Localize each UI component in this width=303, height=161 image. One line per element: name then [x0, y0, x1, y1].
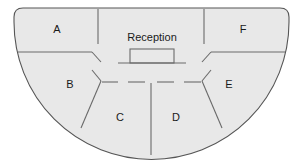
room-label-e: E — [225, 78, 232, 90]
room-label-f: F — [240, 23, 247, 35]
room-label-b: B — [66, 78, 73, 90]
reception-label: Reception — [127, 31, 177, 43]
room-label-d: D — [172, 111, 180, 123]
floor-plan-svg: A B C D E F Reception — [0, 0, 303, 161]
floor-plan-diagram: A B C D E F Reception — [0, 0, 303, 161]
room-label-c: C — [116, 111, 124, 123]
room-label-a: A — [53, 23, 61, 35]
